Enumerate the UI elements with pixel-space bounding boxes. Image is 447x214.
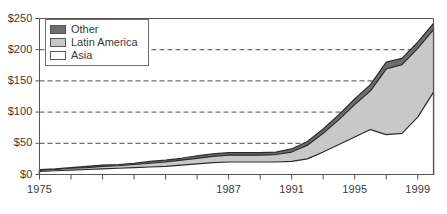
legend-swatch-icon [50, 38, 66, 47]
stacked-area-chart: $0$50$100$150$200$250 197519871991199519… [0, 0, 447, 214]
y-axis-tick-label: $200 [8, 43, 33, 55]
x-axis-tick-label: 1975 [15, 183, 65, 195]
legend-item-label: Latin America [71, 37, 138, 48]
y-axis-tick-label: $50 [14, 136, 33, 148]
legend-item: Other [50, 23, 143, 35]
legend-swatch-icon [50, 25, 66, 34]
y-axis-tick-label: $100 [8, 105, 33, 117]
legend-item-label: Other [71, 24, 99, 35]
x-axis-tick-label: 1991 [267, 183, 317, 195]
legend-item: Asia [50, 49, 143, 61]
legend-item: Latin America [50, 36, 143, 48]
chart-legend: OtherLatin AmericaAsia [45, 19, 149, 66]
y-axis-tick-label: $250 [8, 12, 33, 24]
x-axis-tick-label: 1999 [393, 183, 443, 195]
x-axis-tick-label: 1995 [330, 183, 380, 195]
y-axis-tick-label: $0 [20, 168, 32, 180]
legend-item-label: Asia [71, 50, 92, 61]
y-axis-tick-label: $150 [8, 74, 33, 86]
x-axis-tick-label: 1987 [204, 183, 254, 195]
legend-swatch-icon [50, 51, 66, 60]
